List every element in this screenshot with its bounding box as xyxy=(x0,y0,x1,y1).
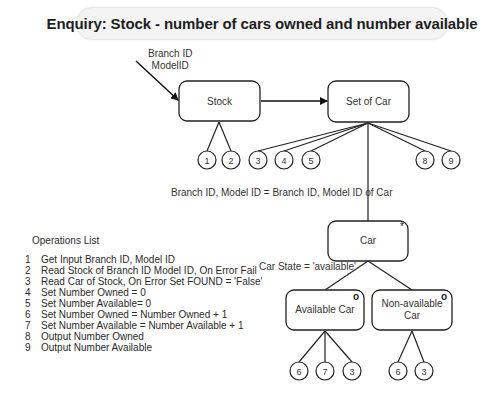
svg-text:3: 3 xyxy=(255,156,260,166)
svg-text:7: 7 xyxy=(322,367,327,377)
operation-item: 8Output Number Owned xyxy=(25,331,262,342)
non-available-car-label-line2: Car xyxy=(404,310,421,321)
operation-number: 7 xyxy=(25,320,41,331)
operation-item: 9Output Number Available xyxy=(25,342,262,353)
svg-text:3: 3 xyxy=(421,367,426,377)
title-banner: Enquiry: Stock - number of cars owned an… xyxy=(76,7,448,40)
operations-list: Operations List 1Get Input Branch ID, Mo… xyxy=(25,235,262,353)
svg-text:8: 8 xyxy=(422,156,427,166)
operation-text: Get Input Branch ID, Model ID xyxy=(41,254,175,265)
operation-number: 1 xyxy=(25,254,41,265)
svg-text:1: 1 xyxy=(204,156,209,166)
operation-item: 4Set Number Owned = 0 xyxy=(25,287,262,298)
operation-text: Set Number Owned = Number Owned + 1 xyxy=(41,309,227,320)
operation-text: Read Stock of Branch ID Model ID, On Err… xyxy=(41,265,257,276)
input-label-line1: Branch ID xyxy=(148,48,192,60)
operation-item: 1Get Input Branch ID, Model ID xyxy=(25,254,262,265)
op-circle: 3 xyxy=(415,362,433,380)
set-of-car-op-connectors xyxy=(258,123,451,221)
non-available-car-node: Non-available Car o xyxy=(372,290,452,330)
op-circle: 8 xyxy=(416,151,434,169)
svg-text:6: 6 xyxy=(296,367,301,377)
available-car-node: Available Car o xyxy=(286,290,364,330)
svg-text:2: 2 xyxy=(228,156,233,166)
car-node: Car * xyxy=(328,221,408,261)
set-of-car-node: Set of Car xyxy=(328,81,409,122)
stock-op-connectors xyxy=(207,122,231,151)
operation-number: 8 xyxy=(25,331,41,342)
op-circle: 1 xyxy=(198,151,216,169)
op-circle: 3 xyxy=(249,151,267,169)
selection-marker-icon: o xyxy=(353,291,359,302)
svg-text:4: 4 xyxy=(281,156,286,166)
car-state-condition-label: Car State = 'available' xyxy=(259,261,356,272)
set-of-car-node-label: Set of Car xyxy=(346,96,392,107)
operation-item: 3Read Car of Stock, On Error Set FOUND =… xyxy=(25,276,262,287)
input-label-line2: ModelID xyxy=(148,60,192,72)
iteration-marker-icon: * xyxy=(400,221,404,232)
svg-text:3: 3 xyxy=(349,367,354,377)
operation-number: 2 xyxy=(25,265,41,276)
operation-item: 7Set Number Available = Number Available… xyxy=(25,320,262,331)
operation-number: 5 xyxy=(25,298,41,309)
operation-text: Read Car of Stock, On Error Set FOUND = … xyxy=(41,276,262,287)
operation-text: Output Number Owned xyxy=(41,331,144,342)
svg-text:6: 6 xyxy=(395,367,400,377)
non-available-car-op-connectors xyxy=(398,331,424,362)
car-node-label: Car xyxy=(360,235,377,246)
selection-marker-icon: o xyxy=(441,291,447,302)
available-car-node-label: Available Car xyxy=(295,304,355,315)
operation-text: Set Number Available= 0 xyxy=(41,298,151,309)
op-circle: 5 xyxy=(302,151,320,169)
operation-number: 4 xyxy=(25,287,41,298)
operation-text: Set Number Owned = 0 xyxy=(41,287,146,298)
operation-number: 9 xyxy=(25,342,41,353)
operation-item: 5Set Number Available= 0 xyxy=(25,298,262,309)
available-car-op-connectors xyxy=(299,331,352,362)
op-circle: 7 xyxy=(316,362,334,380)
op-circle: 6 xyxy=(290,362,308,380)
op-circle: 2 xyxy=(222,151,240,169)
op-circle: 6 xyxy=(389,362,407,380)
selection-condition-label: Branch ID, Model ID = Branch ID, Model I… xyxy=(171,187,393,198)
operation-text: Output Number Available xyxy=(41,342,152,353)
op-circle: 9 xyxy=(442,151,460,169)
op-circle: 3 xyxy=(343,362,361,380)
operation-number: 6 xyxy=(25,309,41,320)
svg-text:9: 9 xyxy=(448,156,453,166)
stock-node: Stock xyxy=(179,81,260,121)
op-circle: 4 xyxy=(275,151,293,169)
stock-node-label: Stock xyxy=(207,96,233,107)
operation-number: 3 xyxy=(25,276,41,287)
diagram-title: Enquiry: Stock - number of cars owned an… xyxy=(47,15,478,32)
operations-list-title: Operations List xyxy=(32,235,262,246)
svg-text:5: 5 xyxy=(308,156,313,166)
input-data-label: Branch ID ModelID xyxy=(148,48,192,72)
operation-item: 6Set Number Owned = Number Owned + 1 xyxy=(25,309,262,320)
operation-item: 2Read Stock of Branch ID Model ID, On Er… xyxy=(25,265,262,276)
operation-text: Set Number Available = Number Available … xyxy=(41,320,244,331)
non-available-car-label-line1: Non-available xyxy=(381,298,443,309)
